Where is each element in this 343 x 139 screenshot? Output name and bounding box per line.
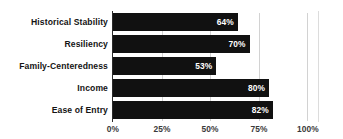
bar-row: 80% [113, 79, 308, 97]
bar-row: 82% [113, 101, 308, 119]
bar-value-ease-of-entry: 82% [252, 101, 269, 119]
plot-area: 64% 70% 53% 80% 82% [113, 13, 308, 121]
category-label-income: Income [0, 79, 108, 97]
category-label-historical-stability: Historical Stability [0, 13, 108, 31]
bar-row: 53% [113, 57, 308, 75]
xtick-label-50: 50% [201, 123, 218, 135]
bar-chart: Historical Stability Resiliency Family-C… [0, 0, 343, 139]
bar-value-resiliency: 70% [228, 35, 245, 53]
bar-income [113, 79, 269, 97]
xtick-label-0: 0% [107, 123, 119, 135]
xtick-label-100: 100% [297, 123, 319, 135]
bar-row: 70% [113, 35, 308, 53]
xtick-label-75: 75% [250, 123, 267, 135]
bar-row: 64% [113, 13, 308, 31]
category-label-ease-of-entry: Ease of Entry [0, 101, 108, 119]
value-axis: 0% 25% 50% 75% 100% [0, 123, 343, 137]
category-label-family-centeredness: Family-Centeredness [0, 57, 108, 75]
bar-value-income: 80% [248, 79, 265, 97]
bar-ease-of-entry [113, 101, 273, 119]
bar-value-family-centeredness: 53% [195, 57, 212, 75]
xtick-label-25: 25% [153, 123, 170, 135]
bar-value-historical-stability: 64% [217, 13, 234, 31]
category-axis: Historical Stability Resiliency Family-C… [0, 13, 108, 121]
category-label-resiliency: Resiliency [0, 35, 108, 53]
gridline-100-outer [318, 11, 319, 122]
